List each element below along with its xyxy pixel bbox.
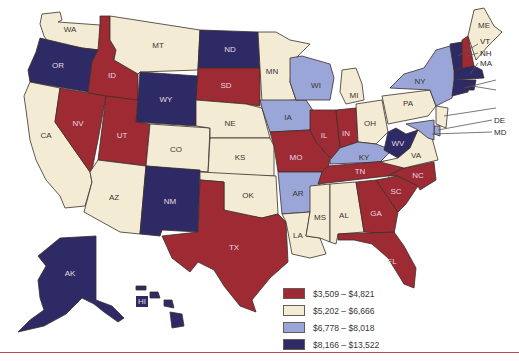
label-AL: AL — [339, 211, 349, 220]
label-NV: NV — [72, 119, 84, 128]
label-IL: IL — [321, 131, 328, 140]
legend: $3,509 – $4,821 $5,202 – $6,666 $6,778 –… — [283, 285, 413, 353]
callout-MD: MD — [494, 128, 507, 137]
label-MO: MO — [290, 153, 303, 162]
label-MI: MI — [350, 91, 359, 100]
legend-label-1: $3,509 – $4,821 — [313, 289, 374, 299]
callout-MA: MA — [480, 59, 493, 68]
label-SC: SC — [390, 187, 401, 196]
state-FL — [338, 232, 416, 288]
label-TN: TN — [355, 167, 366, 176]
label-WI: WI — [311, 81, 321, 90]
callout-DE: DE — [494, 116, 505, 125]
label-NE: NE — [224, 119, 235, 128]
label-HI: HI — [138, 297, 146, 306]
label-GA: GA — [370, 209, 382, 218]
state-WI — [290, 56, 334, 100]
leader-RI — [472, 86, 496, 90]
label-TX: TX — [229, 243, 240, 252]
label-LA: LA — [293, 231, 303, 240]
label-AZ: AZ — [109, 193, 119, 202]
state-DE — [434, 126, 440, 136]
label-WY: WY — [160, 95, 174, 104]
state-NJ — [436, 106, 448, 128]
legend-swatch-3 — [283, 322, 305, 333]
label-AK: AK — [65, 269, 76, 278]
label-PA: PA — [403, 99, 414, 108]
legend-label-3: $6,778 – $8,018 — [313, 323, 374, 333]
label-KY: KY — [359, 153, 370, 162]
leader-MD — [432, 132, 492, 134]
label-VA: VA — [411, 151, 422, 160]
label-IN: IN — [342, 129, 350, 138]
label-CO: CO — [170, 145, 182, 154]
label-OH: OH — [364, 119, 376, 128]
label-KS: KS — [235, 153, 246, 162]
label-WA: WA — [64, 25, 77, 34]
label-WV: WV — [392, 139, 406, 148]
label-AR: AR — [292, 189, 303, 198]
label-MS: MS — [314, 213, 326, 222]
legend-item-3: $6,778 – $8,018 — [283, 319, 413, 336]
legend-item-2: $5,202 – $6,666 — [283, 302, 413, 319]
bottom-rule — [0, 352, 519, 353]
legend-label-2: $5,202 – $6,666 — [313, 306, 374, 316]
label-OK: OK — [242, 191, 254, 200]
legend-swatch-1 — [283, 288, 305, 299]
label-CA: CA — [40, 131, 52, 140]
label-ND: ND — [224, 45, 236, 54]
label-FL: FL — [387, 257, 397, 266]
label-ME: ME — [478, 21, 490, 30]
state-IN — [336, 108, 358, 148]
label-ID: ID — [108, 71, 116, 80]
callout-VT: VT — [480, 37, 490, 46]
legend-swatch-2 — [283, 305, 305, 316]
label-NC: NC — [412, 171, 424, 180]
us-choropleth-map: WAORCAIDNVMTWYUTAZCONMNDSDNEKSOKTXMNIAMO… — [0, 0, 519, 361]
leader-NJ — [444, 108, 496, 116]
label-NY: NY — [414, 77, 426, 86]
label-SD: SD — [220, 81, 231, 90]
legend-item-1: $3,509 – $4,821 — [283, 285, 413, 302]
legend-label-4: $8,166 – $13,522 — [313, 340, 379, 350]
legend-item-4: $8,166 – $13,522 — [283, 336, 413, 353]
label-IA: IA — [284, 113, 292, 122]
callout-NH: NH — [480, 49, 492, 58]
label-NM: NM — [164, 197, 177, 206]
label-OR: OR — [52, 61, 64, 70]
state-AK — [18, 236, 124, 332]
label-MN: MN — [266, 67, 279, 76]
legend-swatch-4 — [283, 339, 305, 350]
label-UT: UT — [117, 131, 128, 140]
label-MT: MT — [152, 41, 164, 50]
state-CT — [452, 80, 470, 96]
